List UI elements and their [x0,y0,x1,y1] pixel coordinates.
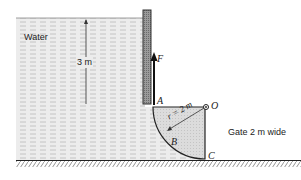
gate-width-label: Gate 2 m wide [228,128,286,137]
water-label: Water [24,33,48,42]
force-label: F [157,54,163,64]
diagram-canvas [0,0,301,180]
ground-hatch [16,161,301,167]
vertical-wall [143,10,151,104]
point-b-label: B [171,137,177,147]
point-a-label: A [157,96,163,106]
depth-label: 3 m [76,57,93,68]
point-c-label: C [208,151,215,161]
point-o-label: O [211,101,218,111]
